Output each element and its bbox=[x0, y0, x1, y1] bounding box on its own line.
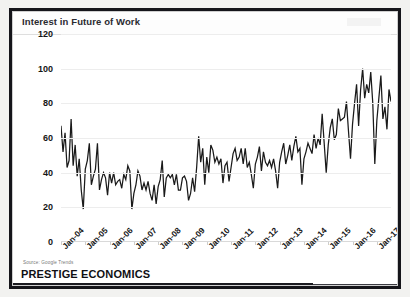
gridline bbox=[61, 138, 391, 139]
gridline bbox=[61, 34, 391, 35]
chart-title-bar: Interest in Future of Work bbox=[13, 12, 397, 35]
gridline bbox=[61, 103, 391, 104]
page-title: Interest in Future of Work bbox=[22, 16, 140, 27]
plot-area bbox=[61, 34, 391, 242]
source-note: Source: Google Trends bbox=[23, 260, 73, 265]
y-axis-tick-label: 80 bbox=[13, 98, 53, 108]
y-axis-tick-label: 20 bbox=[13, 202, 53, 212]
plot-wrapper: 020406080100120 Jan-04Jan-05Jan-06Jan-07… bbox=[13, 34, 398, 286]
brand-rule bbox=[13, 283, 313, 286]
gridline bbox=[61, 173, 391, 174]
y-axis-tick-label: 100 bbox=[13, 64, 53, 74]
chart-card: Interest in Future of Work 0204060801001… bbox=[12, 11, 398, 286]
y-axis-tick-label: 120 bbox=[13, 29, 53, 39]
screenshot-frame: Interest in Future of Work 0204060801001… bbox=[0, 0, 410, 297]
y-axis-tick-label: 60 bbox=[13, 133, 53, 143]
title-watermark bbox=[347, 18, 381, 26]
gridline bbox=[61, 69, 391, 70]
brand-wordmark: PRESTIGE ECONOMICS bbox=[21, 268, 150, 280]
brand-rule-secondary bbox=[313, 284, 398, 286]
y-axis-labels: 020406080100120 bbox=[13, 34, 59, 242]
y-axis-tick-label: 40 bbox=[13, 168, 53, 178]
gridline bbox=[61, 207, 391, 208]
y-axis-tick-label: 0 bbox=[13, 237, 53, 247]
